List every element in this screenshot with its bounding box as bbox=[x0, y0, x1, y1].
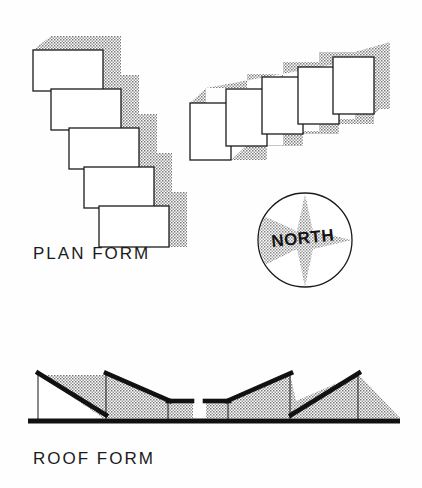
plan-block-1 bbox=[33, 50, 103, 91]
plan-block-4 bbox=[84, 167, 154, 208]
plan-block-2 bbox=[51, 89, 121, 130]
roof-plan-block-2 bbox=[226, 89, 267, 146]
north-compass-group: NORTH bbox=[258, 193, 352, 287]
plan-block-5 bbox=[99, 206, 169, 247]
diagram-canvas: PLAN FORM NORTH bbox=[0, 0, 422, 488]
roof-form-label: ROOF FORM bbox=[33, 449, 155, 468]
plan-form-label: PLAN FORM bbox=[33, 244, 150, 263]
roof-plan-block-5 bbox=[333, 57, 374, 114]
roof-plan-block-3 bbox=[262, 77, 303, 134]
roof-plan-block-1 bbox=[190, 103, 231, 160]
architectural-diagram-svg: PLAN FORM NORTH bbox=[0, 0, 422, 488]
plan-block-3 bbox=[69, 128, 139, 169]
